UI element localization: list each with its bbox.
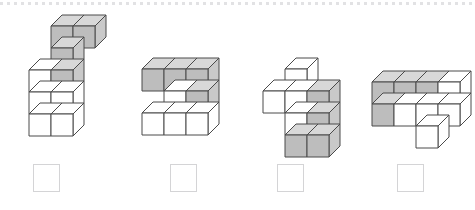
figure-2 bbox=[141, 57, 220, 136]
figure-3 bbox=[262, 57, 341, 158]
figure-2-drawing bbox=[141, 57, 220, 136]
cube-face-front bbox=[142, 113, 164, 135]
figure-3-drawing bbox=[262, 57, 341, 158]
cube-face-front bbox=[186, 113, 208, 135]
cube-face-front bbox=[372, 104, 394, 126]
cube-face-front bbox=[416, 126, 438, 148]
cube-face-front bbox=[142, 69, 164, 91]
worksheet-canvas bbox=[0, 0, 475, 210]
cube-face-front bbox=[394, 104, 416, 126]
figure-1-drawing bbox=[28, 14, 107, 137]
answer-box-figure-4[interactable] bbox=[397, 164, 424, 192]
cube-face-front bbox=[285, 135, 307, 157]
cube-face-front bbox=[29, 114, 51, 136]
figure-1 bbox=[28, 14, 107, 137]
figure-4-drawing bbox=[371, 70, 472, 149]
answer-box-figure-1[interactable] bbox=[33, 164, 60, 192]
figure-4 bbox=[371, 70, 472, 149]
cube-face-front bbox=[263, 91, 285, 113]
answer-box-figure-3[interactable] bbox=[277, 164, 304, 192]
cube-face-front bbox=[51, 114, 73, 136]
cube-face-front bbox=[307, 135, 329, 157]
cube-face-front bbox=[164, 113, 186, 135]
answer-box-figure-2[interactable] bbox=[170, 164, 197, 192]
